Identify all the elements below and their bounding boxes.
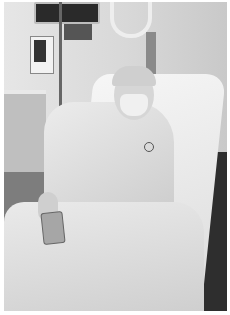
- surgical-cap: [112, 66, 156, 86]
- iv-pump-screen: [34, 40, 46, 62]
- smartphone: [40, 211, 65, 245]
- photo: [4, 2, 227, 311]
- wall-outlet-panel: [64, 24, 92, 40]
- cabinet: [4, 90, 46, 184]
- bed-sheet: [4, 202, 204, 311]
- face-mask: [120, 94, 148, 116]
- vital-signs-monitor: [34, 2, 100, 24]
- gown-logo: [144, 142, 154, 152]
